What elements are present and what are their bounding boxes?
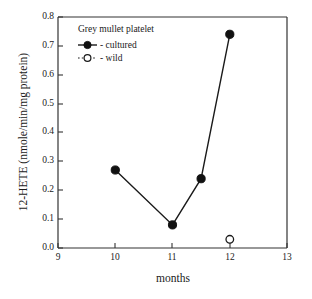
y-axis-ticks: [58, 17, 63, 248]
data-point-m10[interactable]: [111, 166, 119, 174]
x-tick-label-13: 13: [274, 252, 300, 262]
y-tick-label-0.6: 0.6: [28, 69, 54, 79]
x-axis-ticks: [58, 243, 287, 248]
axis-frame: [58, 17, 287, 248]
series-cultured-line: [115, 34, 230, 225]
data-point-m11[interactable]: [168, 221, 176, 229]
x-tick-label-10: 10: [102, 252, 128, 262]
x-tick-label-11: 11: [159, 252, 185, 262]
y-tick-label-0.5: 0.5: [28, 98, 54, 108]
x-axis-title: months: [58, 272, 288, 284]
chart-figure: 0.8 0.7 0.6 0.5 0.4 0.3 0.2 0.1 0.0 9 10…: [0, 0, 312, 299]
data-point-m12[interactable]: [226, 30, 234, 38]
y-axis-title: 12-HETE (nmole/min/mg protein): [17, 27, 29, 237]
legend-label-wild: - wild: [100, 53, 122, 63]
y-tick-label-0.7: 0.7: [28, 40, 54, 50]
legend-markers: [78, 41, 97, 61]
y-tick-label-0.0: 0.0: [28, 242, 54, 252]
data-point-wild-m12[interactable]: [226, 236, 234, 244]
legend-marker-cultured-icon: [84, 41, 91, 48]
legend-marker-wild-icon: [84, 55, 91, 62]
data-point-m11-5[interactable]: [197, 175, 205, 183]
legend-label-cultured: - cultured: [100, 40, 137, 50]
x-tick-label-12: 12: [217, 252, 243, 262]
y-tick-label-0.4: 0.4: [28, 126, 54, 136]
y-tick-label-0.8: 0.8: [28, 11, 54, 21]
y-tick-label-0.3: 0.3: [28, 155, 54, 165]
series-wild-markers: [226, 236, 234, 244]
series-cultured-markers: [111, 30, 234, 229]
y-tick-label-0.2: 0.2: [28, 184, 54, 194]
y-tick-label-0.1: 0.1: [28, 213, 54, 223]
x-tick-label-9: 9: [45, 252, 71, 262]
legend-title: Grey mullet platelet: [78, 24, 154, 34]
